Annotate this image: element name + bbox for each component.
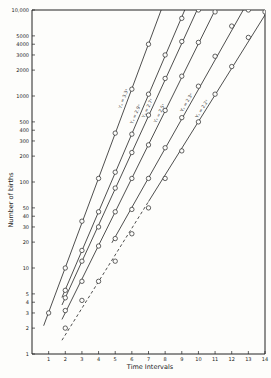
x-tick-label: 2 [64, 356, 67, 362]
y-axis-title: Number of births [7, 172, 15, 228]
x-tick-label: 6 [130, 356, 133, 362]
data-point [130, 150, 134, 154]
data-point [246, 8, 250, 12]
data-point [80, 219, 84, 223]
y-tick-label: 10,000 [12, 7, 30, 13]
series-equation-label: Yₓ = 3.3ˣ [117, 88, 129, 110]
y-tick-label: 30 [23, 224, 29, 230]
data-point [80, 259, 84, 263]
data-point [230, 24, 234, 28]
x-axis-title: Time Intervals [126, 363, 174, 371]
data-point [130, 176, 134, 180]
chart: 1234510203040501002003004005001000200030… [0, 0, 271, 378]
data-point [63, 266, 67, 270]
x-axis: 1234567891011121314 [47, 351, 268, 362]
data-point [263, 10, 267, 14]
y-tick-label: 4 [26, 299, 29, 305]
y-axis: 1234510203040501002003004005001000200030… [12, 7, 36, 357]
data-point [46, 311, 50, 315]
x-tick-label: 3 [80, 356, 83, 362]
data-point [130, 87, 134, 91]
series-line [44, 0, 169, 326]
y-tick-label: 50 [23, 205, 29, 211]
data-point [113, 259, 117, 263]
data-point [246, 35, 250, 39]
data-point [63, 288, 67, 292]
data-point [146, 143, 150, 147]
data-point [130, 232, 134, 236]
y-tick-label: 5000 [16, 33, 29, 39]
data-point [63, 326, 67, 330]
y-tick-label: 400 [19, 127, 29, 133]
y-tick-label: 200 [19, 153, 29, 159]
data-point [80, 298, 84, 302]
data-point [163, 146, 167, 150]
y-tick-label: 3000 [16, 52, 29, 58]
data-point [196, 84, 200, 88]
data-point [196, 120, 200, 124]
data-point [130, 207, 134, 211]
data-point [163, 53, 167, 57]
data-point [96, 225, 100, 229]
x-tick-label: 4 [97, 356, 100, 362]
y-tick-label: 5 [26, 291, 29, 297]
data-point [96, 279, 100, 283]
y-tick-label: 2 [26, 325, 29, 331]
x-tick-label: 5 [114, 356, 117, 362]
series-line [62, 3, 218, 319]
data-point [113, 186, 117, 190]
x-tick-label: 13 [245, 356, 251, 362]
data-point [146, 176, 150, 180]
data-point [213, 10, 217, 14]
data-point [130, 132, 134, 136]
x-tick-label: 14 [262, 356, 268, 362]
plot-frame [32, 10, 265, 354]
data-point [146, 206, 150, 210]
data-point [146, 42, 150, 46]
data-point [213, 92, 217, 96]
y-tick-label: 1000 [16, 93, 29, 99]
y-tick-label: 20 [23, 239, 29, 245]
data-point [180, 115, 184, 119]
x-tick-label: 10 [195, 356, 201, 362]
data-point [63, 296, 67, 300]
data-point [180, 74, 184, 78]
y-tick-label: 1 [26, 351, 29, 357]
series-line [62, 10, 267, 341]
x-tick-label: 12 [229, 356, 235, 362]
data-point [96, 244, 100, 248]
data-point [196, 8, 200, 12]
data-point [230, 64, 234, 68]
data-point [146, 92, 150, 96]
series-line [62, 9, 185, 297]
data-point [113, 210, 117, 214]
series-line [62, 7, 201, 305]
data-point [180, 16, 184, 20]
data-point [113, 170, 117, 174]
data-point [180, 39, 184, 43]
data-point [96, 176, 100, 180]
y-tick-label: 500 [19, 119, 29, 125]
y-tick-label: 10 [23, 265, 29, 271]
y-tick-label: 40 [23, 213, 29, 219]
data-point [163, 76, 167, 80]
data-point [113, 131, 117, 135]
data-point [180, 149, 184, 153]
data-point [196, 40, 200, 44]
y-tick-label: 4000 [16, 41, 29, 47]
data-point [163, 176, 167, 180]
series-group: Yₓ = 3.3ˣYₓ = 2.9ˣYₓ = 2.7ˣYₓ = 2.5ˣYₓ =… [44, 0, 268, 340]
data-point [80, 248, 84, 252]
data-point [113, 236, 117, 240]
data-point [63, 308, 67, 312]
x-tick-label: 9 [180, 356, 183, 362]
data-point [96, 210, 100, 214]
y-tick-label: 3 [26, 310, 29, 316]
data-point [80, 279, 84, 283]
y-tick-label: 300 [19, 138, 29, 144]
y-tick-label: 2000 [16, 67, 29, 73]
x-tick-label: 11 [212, 356, 218, 362]
x-tick-label: 8 [164, 356, 167, 362]
y-tick-label: 100 [19, 179, 29, 185]
data-point [213, 54, 217, 58]
